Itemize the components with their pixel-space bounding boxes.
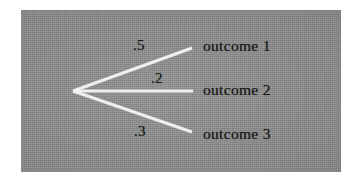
figure-root: .5 .2 .3 outcome 1 outcome 2 outcome 3 (0, 0, 354, 182)
outcome-label-1: outcome 1 (203, 38, 271, 54)
probability-label-outcome-1: .5 (133, 38, 145, 53)
outcome-label-3: outcome 3 (203, 126, 271, 142)
scan-noise-texture (21, 10, 341, 172)
probability-label-outcome-2: .2 (151, 71, 163, 86)
probability-label-outcome-3: .3 (134, 124, 146, 139)
panel-vignette (21, 10, 341, 172)
outcome-label-2: outcome 2 (203, 82, 271, 98)
diagram-panel (21, 10, 341, 172)
